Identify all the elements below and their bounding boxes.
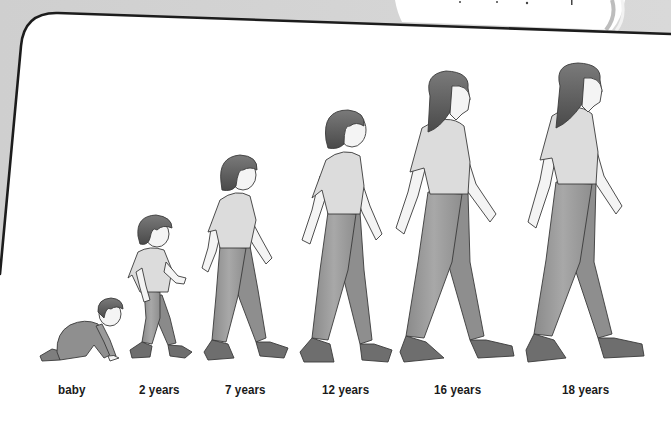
- stage-label-7-years: 7 years: [225, 382, 266, 397]
- stage-label-12-years: 12 years: [322, 382, 369, 397]
- growth-illustration: [0, 0, 671, 421]
- stage-label-18-years: 18 years: [562, 382, 609, 397]
- stage-label-2-years: 2 years: [139, 382, 180, 397]
- stage-label-16-years: 16 years: [434, 382, 481, 397]
- stage-label-baby: baby: [58, 382, 85, 397]
